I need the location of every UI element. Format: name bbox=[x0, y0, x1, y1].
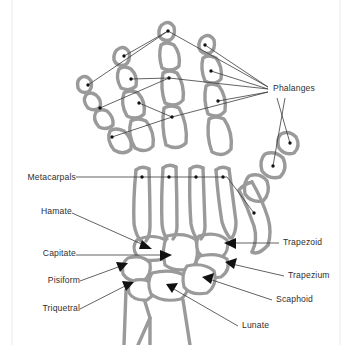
leader-lines-phalanges bbox=[88, 31, 290, 166]
leader-lines-metacarpals bbox=[76, 175, 256, 214]
phalanges-middle bbox=[159, 23, 186, 148]
label-triquetral: Triquetral bbox=[14, 304, 80, 313]
label-metacarpals: Metacarpals bbox=[16, 173, 76, 182]
label-trapezium: Trapezium bbox=[288, 271, 330, 280]
hand-skeleton-diagram: Phalanges Metacarpals Hamate Capitate Pi… bbox=[0, 0, 348, 345]
bone-pisiform bbox=[123, 257, 151, 282]
label-lunate: Lunate bbox=[242, 321, 269, 330]
label-scaphoid: Scaphoid bbox=[276, 295, 313, 304]
phalanges-index bbox=[199, 36, 231, 155]
label-trapezoid: Trapezoid bbox=[283, 238, 322, 247]
label-phalanges: Phalanges bbox=[273, 84, 315, 93]
label-hamate: Hamate bbox=[18, 207, 72, 216]
label-pisiform: Pisiform bbox=[22, 276, 80, 285]
label-capitate: Capitate bbox=[16, 249, 76, 258]
